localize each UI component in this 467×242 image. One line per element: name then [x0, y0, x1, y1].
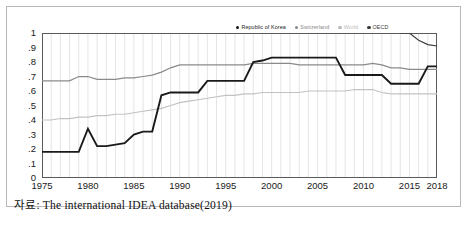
- legend-entry: OECD: [367, 25, 388, 30]
- plot-border: [43, 34, 437, 178]
- legend-marker-dot-icon: [236, 26, 239, 29]
- series-republic-of-korea: [42, 58, 437, 152]
- legend-label: OECD: [373, 25, 389, 30]
- gridlines-vertical: [42, 33, 437, 178]
- figure-container: Republic of KoreaSwitzerlandWorldOECD 0.…: [0, 0, 467, 242]
- series-line: [42, 90, 437, 120]
- legend-label: Republic of Korea: [241, 25, 286, 30]
- legend-label: World: [344, 25, 358, 30]
- source-caption: 자료: The international IDEA database(2019…: [14, 196, 232, 212]
- legend-entry: Republic of Korea: [236, 25, 286, 30]
- line-chart-svg: [42, 33, 437, 178]
- legend-entry: Switzerland: [295, 25, 329, 30]
- legend-marker-dot-icon: [295, 26, 298, 29]
- plot-area: [42, 33, 437, 178]
- legend-marker-dot-icon: [367, 26, 370, 29]
- legend-entry: World: [338, 25, 358, 30]
- series-line: [42, 63, 437, 80]
- series-world: [42, 90, 437, 120]
- legend-label: Switzerland: [300, 25, 329, 30]
- legend-marker-dot-icon: [338, 26, 341, 29]
- series-line: [42, 58, 437, 152]
- series-switzerland: [42, 63, 437, 80]
